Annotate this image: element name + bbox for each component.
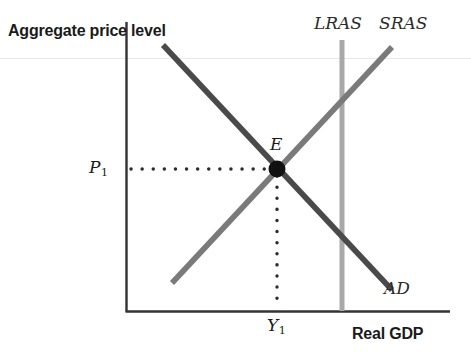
curve-label-sras: SRAS xyxy=(379,14,427,33)
x-axis-value-y1: Y1 xyxy=(267,316,286,337)
figure-canvas: Aggregate price level Real GDP LRAS SRAS… xyxy=(0,0,471,356)
equilibrium-point-dot xyxy=(269,161,286,178)
y-axis-title: Aggregate price level xyxy=(8,22,116,40)
p1-subscript: 1 xyxy=(101,166,108,179)
y1-subscript: 1 xyxy=(279,324,286,337)
ad-as-diagram xyxy=(0,0,471,356)
curve-label-lras: LRAS xyxy=(314,14,362,33)
x-axis-title: Real GDP xyxy=(352,325,423,343)
p1-base: P xyxy=(89,157,100,177)
equilibrium-point-label: E xyxy=(270,135,282,154)
y-axis-value-p1: P1 xyxy=(89,158,108,179)
y1-base: Y xyxy=(267,315,278,335)
curve-label-ad: AD xyxy=(384,279,410,298)
